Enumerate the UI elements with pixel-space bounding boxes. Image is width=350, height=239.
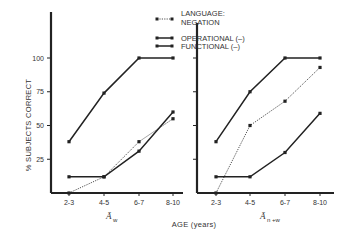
data-point-marker <box>102 175 105 178</box>
y-tick-label: 50 <box>36 122 44 129</box>
right-subscript: n +w <box>267 217 281 223</box>
data-point-marker <box>137 56 140 59</box>
left-symbol: Ā <box>105 211 112 221</box>
data-point-marker <box>171 110 174 113</box>
x-tick-label: 2-3 <box>211 199 221 206</box>
legend-label: LANGUAGE: <box>181 9 225 18</box>
legend-label: NEGATION <box>181 18 220 27</box>
right-subscript-label: Ā n +w <box>259 211 281 223</box>
legend-item-language: LANGUAGE: NEGATION <box>156 9 225 27</box>
marker-icon <box>156 37 159 40</box>
data-point-marker <box>248 90 251 93</box>
legend-item-functional: FUNCTIONAL (–) <box>156 42 241 51</box>
data-point-marker <box>318 56 321 59</box>
x-tick-label: 8-10 <box>313 199 327 206</box>
x-tick-label: 6-7 <box>134 199 144 206</box>
data-point-marker <box>137 150 140 153</box>
y-tick-label: 25 <box>36 156 44 163</box>
marker-icon <box>171 37 174 40</box>
data-point-marker <box>214 175 217 178</box>
x-tick-label: 4-5 <box>99 199 109 206</box>
left-subscript: w <box>112 217 118 223</box>
data-point-marker <box>248 175 251 178</box>
left-panel: 255075100 2-34-56-78-10 <box>32 12 183 206</box>
series-line <box>216 113 320 176</box>
left-subscript-label: Ā w <box>105 211 118 223</box>
data-point-marker <box>283 151 286 154</box>
data-point-marker <box>102 92 105 95</box>
data-point-marker <box>318 66 321 69</box>
data-point-marker <box>283 56 286 59</box>
data-point-marker <box>171 56 174 59</box>
marker-icon <box>156 45 159 48</box>
legend-label: FUNCTIONAL (–) <box>181 42 240 51</box>
marker-icon <box>156 18 159 21</box>
legend: LANGUAGE: NEGATION OPERATIONAL (–) FUNCT… <box>156 9 246 51</box>
right-symbol: Ā <box>259 211 266 221</box>
x-axis-title: AGE (years) <box>172 220 217 229</box>
y-tick-label: 75 <box>36 88 44 95</box>
data-point-marker <box>171 117 174 120</box>
x-tick-label: 6-7 <box>280 199 290 206</box>
x-tick-label: 4-5 <box>245 199 255 206</box>
marker-icon <box>171 45 174 48</box>
data-point-marker <box>318 112 321 115</box>
y-tick-label: 100 <box>32 55 44 62</box>
series-line <box>216 58 320 142</box>
y-axis-title: % SUBJECTS CORRECT <box>24 79 33 172</box>
chart-figure: 255075100 2-34-56-78-10 2-34-56-78-10 % … <box>0 0 350 239</box>
series-line <box>69 112 173 177</box>
data-point-marker <box>248 124 251 127</box>
data-point-marker <box>67 140 70 143</box>
data-point-marker <box>214 191 217 194</box>
data-point-marker <box>283 100 286 103</box>
x-tick-label: 8-10 <box>166 199 180 206</box>
data-point-marker <box>214 140 217 143</box>
data-point-marker <box>67 175 70 178</box>
data-point-marker <box>137 140 140 143</box>
x-tick-label: 2-3 <box>64 199 74 206</box>
data-point-marker <box>67 191 70 194</box>
marker-icon <box>171 18 174 21</box>
